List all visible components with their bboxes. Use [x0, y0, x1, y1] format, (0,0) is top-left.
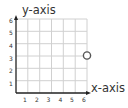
x-tick-label: 2: [35, 96, 39, 103]
x-tick-label: 1: [23, 96, 27, 103]
y-tick-labels: 6 5 4 3 2 1: [9, 17, 13, 87]
y-tick-label: 5: [9, 29, 13, 36]
y-tick-label: 4: [9, 42, 13, 49]
y-axis-arrow-icon: [14, 15, 18, 20]
grid: [16, 19, 87, 93]
x-tick-label: 5: [70, 96, 74, 103]
data-point-marker: [83, 52, 90, 59]
y-tick-label: 3: [9, 55, 13, 62]
y-axis-title: y-axis: [22, 3, 56, 17]
x-axis-title: x-axis: [91, 81, 125, 95]
y-tick-label: 2: [9, 67, 13, 74]
y-tick-label: 1: [9, 80, 13, 87]
x-tick-label: 6: [82, 96, 86, 103]
x-tick-label: 4: [59, 96, 63, 103]
x-tick-labels: 1 2 3 4 5 6: [23, 96, 86, 103]
y-tick-label: 6: [9, 17, 13, 24]
axes: [14, 15, 91, 95]
x-tick-label: 3: [47, 96, 51, 103]
coordinate-plane-chart: 6 5 4 3 2 1 1 2 3 4 5 6 y-axis x-axis: [0, 0, 128, 108]
